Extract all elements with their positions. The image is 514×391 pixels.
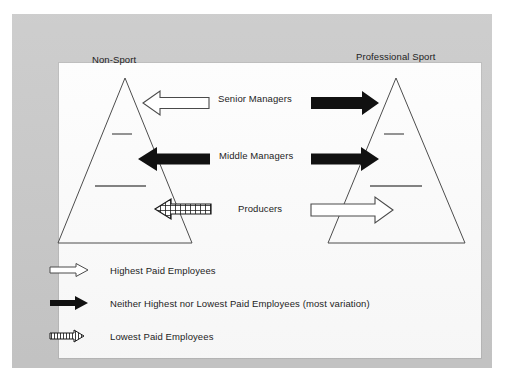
- legend-label-middle-paid: Neither Highest nor Lowest Paid Employee…: [110, 298, 370, 309]
- figure-mount-border: [12, 14, 492, 368]
- legend-label-highest-paid: Highest Paid Employees: [110, 265, 216, 276]
- column-title-professional-sport: Professional Sport: [356, 51, 435, 62]
- row-label-senior-managers: Senior Managers: [218, 93, 292, 104]
- column-title-non-sport: Non-Sport: [92, 54, 136, 65]
- hatched-arrow-right-icon: [48, 328, 100, 344]
- row-label-middle-managers: Middle Managers: [219, 150, 293, 161]
- outline-arrow-right-icon: [48, 262, 100, 278]
- solid-arrow-right-icon: [48, 295, 100, 311]
- legend-label-lowest-paid: Lowest Paid Employees: [110, 331, 214, 342]
- scan-canvas: Non-Sport Professional Sport Senior Mana…: [0, 0, 514, 391]
- row-label-producers: Producers: [238, 203, 282, 214]
